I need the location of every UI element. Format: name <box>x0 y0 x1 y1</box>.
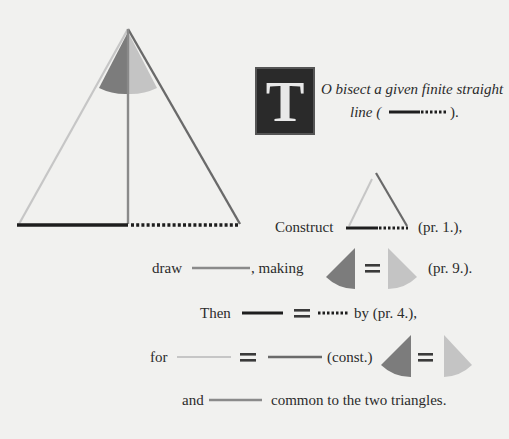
then-ref: by (pr. 4.), <box>354 304 417 322</box>
small-right-side <box>376 173 407 226</box>
for-ref: (const.) <box>327 348 372 366</box>
equals-sign-3 <box>240 353 256 362</box>
sector-light-2 <box>444 335 472 377</box>
title-line-1: O bisect a given finite straight <box>321 80 503 98</box>
for-word: for <box>150 348 168 366</box>
decorated-dropcap: T <box>255 67 315 135</box>
small-left-side <box>349 179 372 226</box>
dropcap-letter: T <box>257 71 313 133</box>
euclid-page: T O bisect a given finite straight line … <box>0 0 509 439</box>
title-line-2-suffix: ). <box>450 103 459 121</box>
and-rest: common to the two triangles. <box>271 391 446 409</box>
sector-light-1 <box>388 248 417 289</box>
then-word: Then <box>200 304 231 322</box>
sector-dark-1 <box>326 248 355 289</box>
angle-sector-light <box>128 32 157 94</box>
and-word: and <box>182 391 204 409</box>
right-side-line <box>128 29 240 224</box>
equals-sign-2 <box>294 309 310 318</box>
construct-word: Construct <box>275 218 333 236</box>
left-side-line <box>19 29 128 224</box>
draw-connector: , making <box>251 259 304 277</box>
equals-sign-1 <box>365 264 380 273</box>
draw-word: draw <box>152 259 182 277</box>
construct-ref: (pr. 1.), <box>418 218 462 236</box>
sector-dark-2 <box>381 335 411 377</box>
draw-ref: (pr. 9.). <box>428 259 472 277</box>
angle-sector-dark <box>99 32 128 94</box>
title-line-2-prefix: line ( <box>350 103 381 121</box>
equals-sign-4 <box>418 353 433 362</box>
